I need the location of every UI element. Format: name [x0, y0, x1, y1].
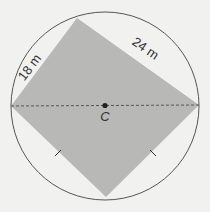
long-side-label: 24 m	[129, 34, 161, 63]
center-label: C	[100, 109, 110, 124]
tick-mark-lower-right	[150, 150, 156, 156]
center-point	[102, 103, 107, 108]
geometry-diagram: 18 m 24 m C	[0, 0, 210, 212]
